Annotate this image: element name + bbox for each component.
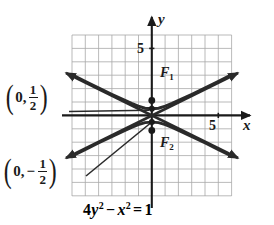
hyperbola-figure: y x 5 5 F1 F2 ( 0, 1 2 ) ( 0, − 1 2 [0, 0, 274, 225]
vertex-label-lower-minus: − [27, 164, 37, 179]
vertex-label-upper-denominator: 2 [29, 99, 38, 112]
equation-equals: = [131, 201, 144, 218]
focus-label-F1: F1 [160, 66, 174, 80]
right-paren-lower: ) [49, 158, 57, 185]
vertex-label-upper-fraction: 1 2 [29, 83, 38, 112]
leader-lines [69, 110, 150, 176]
focus-point-F1 [148, 97, 155, 104]
equation-rhs: 1 [145, 201, 153, 218]
left-paren-lower: ( [4, 158, 12, 185]
leader-line-upper-vertex [69, 110, 149, 111]
focus-label-F2: F2 [160, 136, 174, 150]
y-axis-label: y [158, 12, 165, 27]
vertex-label-lower-content: 0, − 1 2 [13, 157, 47, 186]
vertex-label-lower-numerator: 1 [38, 157, 47, 170]
equation-variable-y: y [91, 201, 98, 218]
vertex-label-upper: ( 0, 1 2 ) [4, 83, 49, 112]
focus-label-F2-subscript: 2 [169, 142, 174, 152]
vertex-label-lower-denominator: 2 [38, 173, 47, 186]
vertex-label-lower-zero: 0, [13, 164, 24, 179]
y-axis-tick-label-5: 5 [137, 42, 144, 56]
vertex-point-lower [149, 119, 155, 125]
focus-label-F1-subscript: 1 [169, 72, 174, 82]
equation-caption: 4y2−x2=1 [83, 200, 153, 219]
right-paren-upper: ) [39, 84, 47, 111]
vertex-label-upper-numerator: 1 [29, 83, 38, 96]
vertex-label-upper-content: 0, 1 2 [15, 83, 37, 112]
focus-label-F2-letter: F [160, 135, 169, 150]
vertex-label-upper-zero: 0, [15, 90, 26, 105]
left-paren-upper: ( [6, 84, 14, 111]
x-axis-label: x [243, 118, 251, 133]
focus-point-F2 [148, 127, 155, 134]
vertex-point-upper [149, 106, 155, 112]
vertex-label-lower-fraction: 1 2 [38, 157, 47, 186]
equation-minus: − [104, 201, 117, 218]
focus-label-F1-letter: F [160, 65, 169, 80]
equation-variable-x: x [117, 201, 125, 218]
x-axis-tick-label-5: 5 [209, 119, 216, 133]
vertex-label-lower: ( 0, − 1 2 ) [2, 157, 58, 186]
